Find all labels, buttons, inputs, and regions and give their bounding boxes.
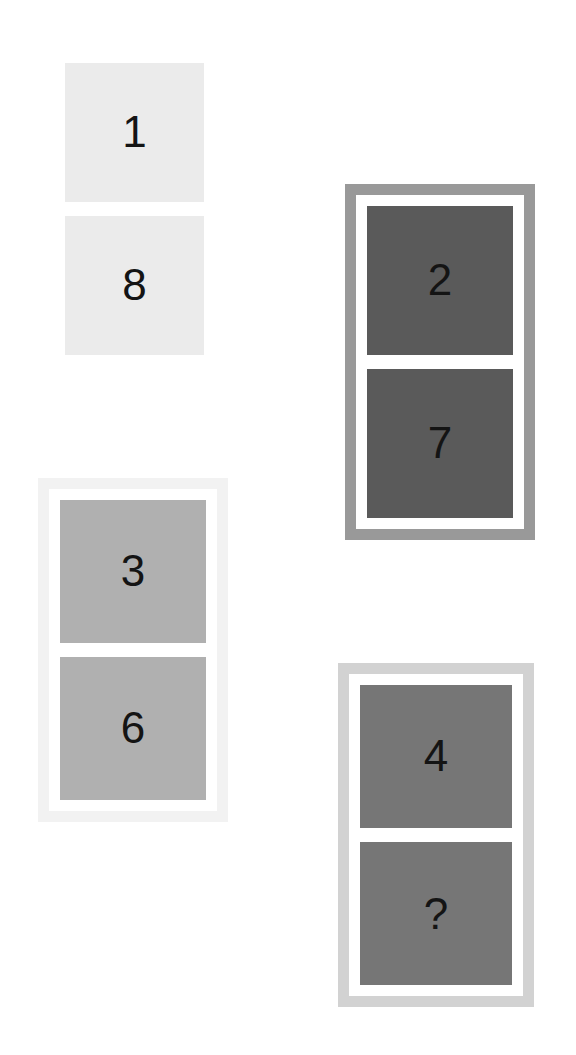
group-top-right: 27 bbox=[345, 184, 535, 540]
tile-7-label: 7 bbox=[428, 421, 452, 465]
tile-2[interactable]: 2 bbox=[367, 206, 513, 355]
group-top-right-inner: 27 bbox=[356, 195, 524, 529]
tile-8-label: 8 bbox=[122, 263, 146, 307]
group-bottom-left-inner: 36 bbox=[49, 489, 217, 811]
tile-6-label: 6 bbox=[121, 706, 145, 750]
group-top-left: 18 bbox=[65, 63, 204, 355]
tile-3[interactable]: 3 bbox=[60, 500, 206, 643]
tile-4-label: 4 bbox=[424, 734, 448, 778]
tile-2-label: 2 bbox=[428, 258, 452, 302]
tile-7[interactable]: 7 bbox=[367, 369, 513, 518]
group-top-left-inner: 18 bbox=[65, 63, 204, 355]
group-bottom-right-inner: 4? bbox=[349, 674, 523, 996]
tile-3-label: 3 bbox=[121, 549, 145, 593]
tile-1-label: 1 bbox=[122, 110, 146, 154]
tile-6[interactable]: 6 bbox=[60, 657, 206, 800]
group-bottom-left: 36 bbox=[38, 478, 228, 822]
tile-1[interactable]: 1 bbox=[65, 63, 204, 202]
tile-8[interactable]: 8 bbox=[65, 216, 204, 355]
puzzle-stage: 1827364? bbox=[0, 0, 576, 1055]
tile-unknown[interactable]: ? bbox=[360, 842, 512, 985]
tile-4[interactable]: 4 bbox=[360, 685, 512, 828]
tile-unknown-label: ? bbox=[424, 892, 448, 936]
group-bottom-right: 4? bbox=[338, 663, 534, 1007]
